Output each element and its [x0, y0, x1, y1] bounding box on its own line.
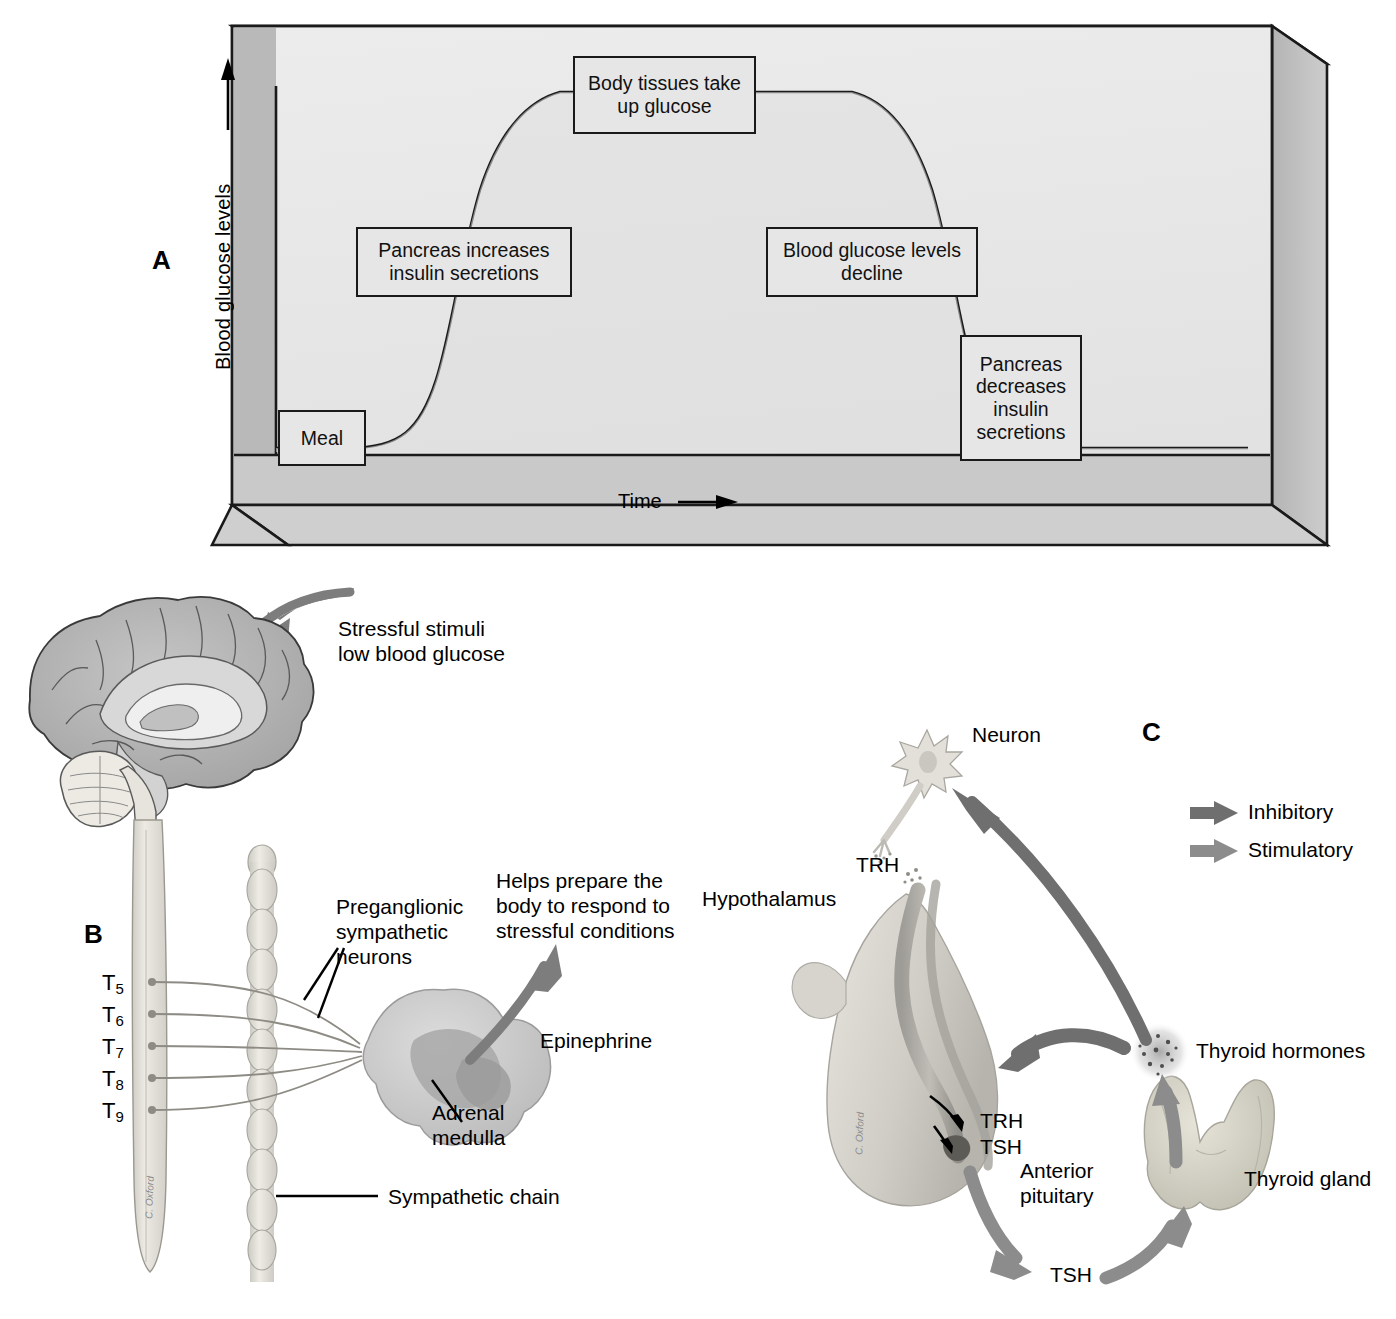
panel-b-letter: B — [84, 920, 103, 949]
spinal-level-t8: T8 — [102, 1066, 124, 1092]
tsh-pituitary-label: TSH — [980, 1134, 1022, 1159]
y-axis-title: Blood glucose levels — [212, 150, 235, 370]
panel-a-box-meal: Meal — [278, 410, 366, 466]
panel-a-box-body-tissues: Body tissues take up glucose — [573, 56, 756, 134]
panel-a-box-plinth — [232, 505, 1327, 545]
epinephrine-label: Epinephrine — [540, 1028, 652, 1053]
stressful-stimuli-label: Stressful stimuli low blood glucose — [338, 616, 505, 666]
arrow-hormones-to-pituitary — [998, 1034, 1124, 1072]
trh-neuron-label: TRH — [856, 852, 899, 877]
panel-a-letter: A — [152, 246, 171, 275]
legend-stimulatory-label: Stimulatory — [1248, 838, 1353, 862]
box-meal-text: Meal — [301, 427, 343, 450]
legend-inhibitory-arrow-icon — [1190, 801, 1238, 825]
panel-a-box-pancreas-decreases: Pancreas decreases insulin secretions — [960, 335, 1082, 461]
neuron-label: Neuron — [972, 722, 1041, 747]
helps-prepare-label: Helps prepare the body to respond to str… — [496, 868, 675, 944]
figure-endocrine-regulation: A Blood glucose levels Time Meal Pancrea… — [0, 0, 1396, 1319]
box-glucose-decline-text: Blood glucose levels decline — [768, 239, 976, 284]
panel-a-floor — [234, 455, 1270, 503]
panel-a-graphic — [0, 0, 1396, 1319]
panel-a-box-right-side — [1272, 26, 1327, 545]
adrenal-medulla-label: Adrenal medulla — [432, 1100, 506, 1150]
trh-release-dots — [903, 868, 921, 884]
spinal-level-t7: T7 — [102, 1034, 124, 1060]
sympathetic-chain-label: Sympathetic chain — [388, 1184, 560, 1209]
panel-a-box-glucose-decline: Blood glucose levels decline — [766, 227, 978, 297]
arrow-tsh-to-thyroid — [1106, 1206, 1192, 1278]
box-pancreas-increases-text: Pancreas increases insulin secretions — [358, 239, 570, 284]
hypothalamus-pituitary-illustration — [792, 868, 997, 1206]
neuron-illustration — [874, 730, 962, 864]
panel-a-left-wall — [234, 28, 276, 503]
anterior-pituitary-label: Anterior pituitary — [1020, 1158, 1094, 1208]
legend-stimulatory-arrow-icon — [1190, 839, 1238, 863]
legend-inhibitory-label: Inhibitory — [1248, 800, 1333, 824]
spinal-level-t6: T6 — [102, 1002, 124, 1028]
panel-c-artist-signature: C. Oxford — [853, 1112, 865, 1155]
tsh-label: TSH — [1050, 1262, 1092, 1287]
spinal-level-t9: T9 — [102, 1098, 124, 1124]
trh-pituitary-label: TRH — [980, 1108, 1023, 1133]
thyroid-gland-label: Thyroid gland — [1244, 1166, 1371, 1191]
arrow-hormones-to-neuron — [952, 788, 1146, 1040]
panel-b-artist-signature: C. Oxford — [143, 1176, 155, 1219]
x-axis-title: Time — [618, 490, 662, 513]
thyroid-hormones-label: Thyroid hormones — [1196, 1038, 1365, 1063]
panel-c-letter: C — [1142, 718, 1161, 747]
spinal-level-t5: T5 — [102, 970, 124, 996]
brain-illustration — [29, 597, 313, 832]
preganglionic-neurons-label: Preganglionic sympathetic neurons — [336, 894, 463, 970]
box-pancreas-decreases-text: Pancreas decreases insulin secretions — [962, 353, 1080, 443]
hypothalamus-label: Hypothalamus — [702, 886, 836, 911]
panel-a-box-pancreas-increases: Pancreas increases insulin secretions — [356, 227, 572, 297]
box-body-tissues-text: Body tissues take up glucose — [575, 72, 754, 117]
